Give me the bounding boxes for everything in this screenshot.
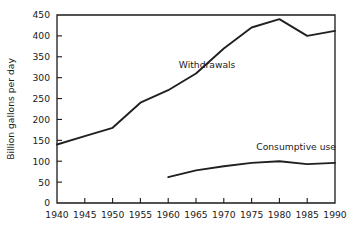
y-tick-label: 300: [32, 72, 50, 83]
y-tick-label: 200: [32, 114, 50, 125]
x-tick-label: 1950: [101, 209, 125, 220]
y-axis-ticks: [57, 36, 62, 182]
series-line-withdrawals: [57, 19, 335, 144]
y-tick-label: 0: [44, 197, 50, 208]
y-tick-label: 450: [32, 9, 50, 20]
x-axis-ticks: [85, 198, 307, 203]
y-tick-label: 350: [32, 51, 50, 62]
y-tick-label: 150: [32, 135, 50, 146]
y-axis-title-group: Billion gallons per day: [5, 58, 16, 160]
x-tick-label: 1945: [73, 209, 97, 220]
x-tick-label: 1975: [240, 209, 264, 220]
plot-frame: [57, 15, 335, 203]
y-tick-label: 400: [32, 30, 50, 41]
x-tick-label: 1980: [268, 209, 292, 220]
x-tick-label: 1970: [212, 209, 236, 220]
axis-frame: [57, 15, 335, 203]
y-tick-label: 100: [32, 156, 50, 167]
y-axis-tick-labels: 050100150200250300350400450: [32, 9, 50, 208]
water-use-line-chart: 050100150200250300350400450 194019451950…: [0, 0, 360, 230]
series-lines: [57, 19, 335, 177]
x-tick-label: 1955: [129, 209, 153, 220]
y-axis-title: Billion gallons per day: [5, 58, 16, 160]
x-tick-label: 1990: [323, 209, 347, 220]
x-tick-label: 1940: [45, 209, 69, 220]
x-tick-label: 1960: [157, 209, 181, 220]
series-labels: WithdrawalsConsumptive use: [179, 59, 336, 151]
y-tick-label: 250: [32, 93, 50, 104]
chart-page: 050100150200250300350400450 194019451950…: [0, 0, 360, 230]
y-tick-label: 50: [38, 177, 50, 188]
series-label-consumptive-use: Consumptive use: [256, 141, 336, 152]
series-line-consumptive-use: [168, 161, 335, 177]
x-axis-tick-labels: 1940194519501955196019651970197519801985…: [45, 209, 347, 220]
series-label-withdrawals: Withdrawals: [179, 59, 236, 70]
x-tick-label: 1985: [296, 209, 320, 220]
x-tick-label: 1965: [184, 209, 208, 220]
